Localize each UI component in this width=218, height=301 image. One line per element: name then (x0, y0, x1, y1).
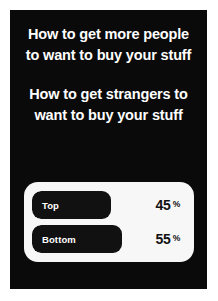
poll-label-bottom: Bottom (32, 234, 76, 245)
caption-line-1: How to get more people to want to buy yo… (10, 24, 207, 65)
story-frame: How to get more people to want to buy yo… (10, 10, 207, 289)
poll-percent-value-bottom: 55 (155, 231, 170, 247)
caption-line-2: How to get strangers to want to buy your… (10, 84, 207, 125)
poll-percent-top: 45% (155, 197, 180, 213)
poll-card: Top 45% Bottom 55% (24, 182, 194, 262)
percent-sign-icon-bottom: % (173, 233, 180, 243)
poll-label-top: Top (32, 200, 59, 211)
poll-option-bottom[interactable]: Bottom 55% (32, 225, 186, 253)
screenshot-canvas: How to get more people to want to buy yo… (0, 0, 218, 301)
poll-option-top[interactable]: Top 45% (32, 191, 186, 219)
caption-area: How to get more people to want to buy yo… (10, 10, 207, 125)
poll-percent-bottom: 55% (155, 231, 180, 247)
poll-percent-value-top: 45 (155, 197, 170, 213)
percent-sign-icon-top: % (173, 199, 180, 209)
